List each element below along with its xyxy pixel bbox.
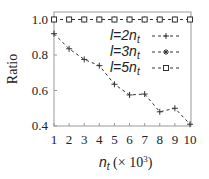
x-axis-label: nt (× 103): [99, 154, 153, 172]
ratio-chart: 0.40.60.81.0 12345678910 Ratio nt (× 103…: [0, 0, 209, 179]
x-tick-label: 10: [184, 132, 197, 147]
plus-marker-icon: [163, 33, 169, 39]
x-tick-label: 8: [157, 132, 164, 147]
x-tick-label: 7: [141, 132, 148, 147]
y-axis-label: Ratio: [5, 54, 20, 84]
y-tick-label: 0.4: [32, 118, 49, 133]
x-tick-label: 2: [66, 132, 73, 147]
x-tick-label: 5: [111, 132, 118, 147]
square-marker-icon: [164, 66, 169, 71]
legend-item-l5: l=5nt: [110, 59, 180, 77]
x-tick-label: 3: [81, 132, 88, 147]
x-tick-label: 9: [172, 132, 179, 147]
series-l=5n_t: [52, 17, 193, 22]
svg-text:l=5nt: l=5nt: [110, 59, 141, 77]
star-marker-icon: [163, 49, 169, 55]
x-tick-label: 1: [51, 132, 58, 147]
y-tick-label: 0.8: [32, 47, 48, 62]
y-tick-label: 1.0: [32, 12, 48, 27]
y-axis-ticks: 0.40.60.81.0: [32, 12, 57, 134]
x-tick-label: 4: [96, 132, 103, 147]
x-tick-label: 6: [126, 132, 133, 147]
y-tick-label: 0.6: [32, 83, 49, 98]
legend: l=2nt l=3nt l=5nt: [110, 27, 180, 77]
x-axis-ticks: 12345678910: [51, 123, 197, 147]
